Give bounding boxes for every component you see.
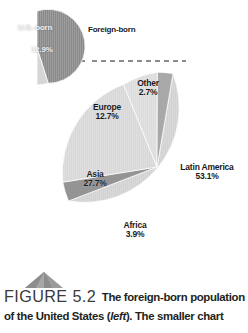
pie-label-asia: Asia 27.7%: [72, 170, 118, 188]
figure-number: FIGURE 5.2: [4, 287, 96, 305]
small-pie-label-us-born: U.S.-born: [18, 23, 52, 32]
figure-caption-line2: of the United States (left). The smaller…: [4, 310, 248, 322]
figure-page: U.S.-born 12.9% Foreign-born Other 2.7% …: [0, 0, 248, 333]
pie-label-africa-value: 3.9%: [113, 230, 157, 239]
small-pie-label-foreign-born-value: 12.9%: [31, 45, 53, 54]
figure-caption-line2-a: of the United States (: [4, 310, 110, 322]
pie-label-africa: Africa 3.9%: [113, 221, 157, 239]
pie-label-other: Other 2.7%: [126, 79, 170, 97]
figure-graphic-area: U.S.-born 12.9% Foreign-born Other 2.7% …: [0, 0, 248, 266]
pie-label-latin-america-value: 53.1%: [174, 172, 240, 181]
figure-caption-block: FIGURE 5.2 The foreign-born population o…: [0, 266, 248, 333]
callout-label-foreign-born: Foreign-born: [88, 25, 135, 34]
figure-caption-line2-b: ). The smaller chart: [126, 310, 223, 322]
figure-caption-line2-italic: left: [110, 310, 126, 322]
pie-label-latin-america: Latin America 53.1%: [174, 163, 240, 181]
pie-label-asia-value: 27.7%: [72, 179, 118, 188]
pie-label-europe-value: 12.7%: [84, 112, 130, 121]
pie-label-other-value: 2.7%: [126, 88, 170, 97]
pie-label-europe: Europe 12.7%: [84, 103, 130, 121]
figure-caption-line1: FIGURE 5.2 The foreign-born population: [4, 288, 248, 306]
figure-caption-line1-text: The foreign-born population: [102, 291, 245, 303]
